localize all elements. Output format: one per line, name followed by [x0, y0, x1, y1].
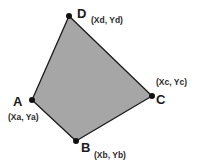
coord-label-c: (Xc, Yc): [156, 77, 187, 87]
vertex-label-d: D: [77, 6, 86, 21]
coord-label-d: (Xd, Yd): [91, 15, 123, 25]
vertex-dot-c: [149, 93, 155, 99]
coord-label-a: (Xa, Ya): [8, 112, 39, 122]
vertex-label-a: A: [13, 94, 23, 109]
coord-label-b: (Xb, Yb): [94, 150, 126, 160]
vertex-dot-a: [29, 97, 35, 103]
vertex-label-b: B: [81, 140, 90, 155]
vertex-label-c: C: [156, 92, 166, 107]
vertex-dot-d: [66, 13, 72, 19]
quadrilateral-shape: [32, 16, 152, 141]
quadrilateral-diagram: A B C D (Xa, Ya) (Xb, Yb) (Xc, Yc) (Xd, …: [0, 0, 197, 166]
vertex-dot-b: [73, 138, 79, 144]
